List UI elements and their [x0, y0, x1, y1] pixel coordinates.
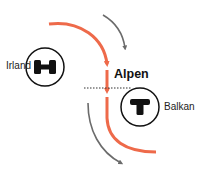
- weather-diagram: Irland Alpen Balkan: [0, 0, 219, 175]
- label-irland: Irland: [6, 60, 31, 71]
- label-balkan: Balkan: [164, 101, 195, 112]
- gray-flow-arrow-upper: [103, 15, 125, 48]
- low-pressure-icon: [121, 88, 159, 126]
- label-alpen: Alpen: [114, 67, 149, 81]
- gray-flow-arrow-lower: [88, 103, 121, 163]
- high-pressure-icon: [26, 48, 64, 86]
- diagram-graphics: [0, 0, 219, 175]
